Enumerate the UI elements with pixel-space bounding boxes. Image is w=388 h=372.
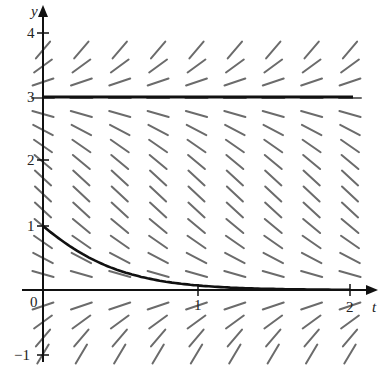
slope-segment xyxy=(227,187,243,202)
slope-segment xyxy=(153,345,164,364)
slope-segment xyxy=(111,236,129,249)
tick-label-y2: 2 xyxy=(27,152,35,168)
slope-segment xyxy=(340,79,361,86)
slope-segment xyxy=(227,171,243,186)
slope-segment xyxy=(188,236,206,249)
slope-segment xyxy=(150,187,166,202)
slope-segment xyxy=(188,140,206,153)
slope-segment xyxy=(301,79,322,86)
x-axis-label: t xyxy=(372,299,377,315)
slope-segment xyxy=(303,316,321,329)
slope-segment xyxy=(226,219,243,233)
slope-segment xyxy=(304,171,320,186)
slope-segment xyxy=(225,125,245,135)
slope-segment xyxy=(302,125,322,135)
slope-segment xyxy=(343,42,357,59)
slope-segment xyxy=(150,155,167,169)
slope-segment xyxy=(265,171,281,186)
slope-segment xyxy=(342,187,358,202)
slope-segment xyxy=(111,140,129,153)
slope-segment xyxy=(187,253,207,263)
tick-label-ym1: −1 xyxy=(14,347,30,363)
slope-segment xyxy=(150,203,166,218)
slope-segment xyxy=(341,236,359,249)
slope-segment xyxy=(263,111,284,117)
slope-segment xyxy=(263,303,284,310)
slope-segment xyxy=(225,253,245,263)
slope-segment xyxy=(112,187,128,202)
tick-label-origin: 0 xyxy=(30,294,38,310)
slope-segment xyxy=(151,42,165,59)
slope-segment xyxy=(71,79,92,86)
slope-segment xyxy=(73,155,90,169)
slope-segment xyxy=(224,111,245,117)
slope-segment xyxy=(188,219,205,233)
slope-segment xyxy=(189,42,203,59)
slope-segment xyxy=(303,219,320,233)
slope-segment xyxy=(73,171,89,186)
slope-segment xyxy=(227,203,243,218)
slope-field-plot: y t 4 3 2 1 0 −1 1 2 xyxy=(0,0,388,372)
slope-segment xyxy=(339,271,360,277)
slope-segment xyxy=(112,203,128,218)
slope-segment xyxy=(150,171,166,186)
slope-segment xyxy=(111,60,129,73)
slope-segment xyxy=(109,79,130,86)
slope-segment xyxy=(225,79,246,86)
slope-segment xyxy=(189,187,205,202)
x-axis-arrow-icon xyxy=(366,285,378,295)
slope-segment xyxy=(264,253,284,263)
slope-segment xyxy=(149,236,167,249)
slope-segment xyxy=(187,125,207,135)
tick-label-x2: 2 xyxy=(346,299,354,315)
slope-segment xyxy=(71,303,92,310)
slope-segment xyxy=(265,219,282,233)
slope-segment xyxy=(228,42,242,59)
slope-segment xyxy=(73,219,90,233)
slope-segment xyxy=(149,316,167,329)
slope-segment xyxy=(72,125,92,135)
slope-segment xyxy=(226,140,244,153)
slope-segment xyxy=(73,60,91,73)
slope-segment xyxy=(264,236,282,249)
slope-segment xyxy=(268,345,279,364)
slope-segment xyxy=(188,203,204,218)
slope-segment xyxy=(148,111,169,117)
slope-segment xyxy=(301,111,322,117)
slope-segment xyxy=(265,155,282,169)
slope-segment xyxy=(76,345,87,364)
slope-segment xyxy=(188,171,204,186)
slope-segment xyxy=(229,345,240,364)
slope-segment xyxy=(111,155,128,169)
slope-segment xyxy=(264,316,282,329)
slope-segment xyxy=(303,236,321,249)
slope-segment xyxy=(302,253,322,263)
slope-segment xyxy=(341,60,359,73)
slope-segment xyxy=(111,219,128,233)
slope-segment xyxy=(72,236,90,249)
slope-segment xyxy=(149,60,167,73)
slope-segment xyxy=(71,111,92,117)
slope-segment xyxy=(306,345,317,364)
slope-segments xyxy=(32,42,361,364)
slope-segment xyxy=(188,155,205,169)
slope-segment xyxy=(186,271,207,277)
slope-segment xyxy=(263,271,284,277)
slope-segment xyxy=(110,253,130,263)
slope-segment xyxy=(266,42,280,59)
slope-segment xyxy=(265,203,281,218)
tick-label-y1: 1 xyxy=(27,218,35,234)
slope-segment xyxy=(71,271,92,277)
slope-segment xyxy=(342,203,358,218)
tick-label-x1: 1 xyxy=(194,297,202,313)
slope-segment xyxy=(343,330,357,347)
slope-segment xyxy=(73,316,91,329)
slope-segment xyxy=(303,155,320,169)
slope-segment xyxy=(226,316,244,329)
tick-label-y3: 3 xyxy=(27,89,35,105)
slope-segment xyxy=(73,187,89,202)
slope-segment xyxy=(303,140,321,153)
slope-segment xyxy=(150,219,167,233)
slope-segment xyxy=(265,187,281,202)
slope-segment xyxy=(264,60,282,73)
